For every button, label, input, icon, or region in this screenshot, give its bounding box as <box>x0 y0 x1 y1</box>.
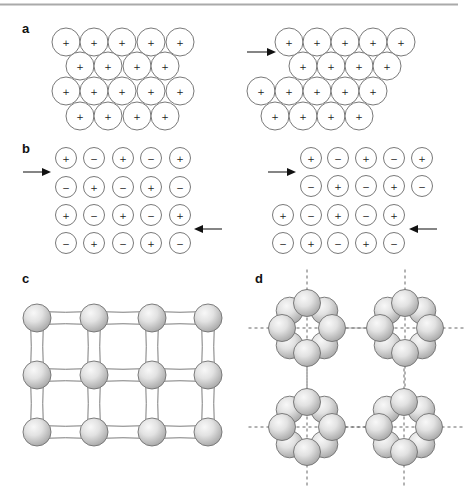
cation: + <box>94 52 122 80</box>
charge-sign: − <box>307 182 315 192</box>
charge-sign: − <box>176 183 184 193</box>
charge-sign: + <box>334 211 342 221</box>
anion: − <box>384 148 405 169</box>
cation: + <box>384 176 405 197</box>
panel-label-b: b <box>22 141 30 156</box>
panel-b-left-lattice: +−+−+−+−+−+−+−+−+−+− <box>23 148 222 254</box>
charge-sign: + <box>62 87 70 97</box>
anion: − <box>141 205 162 226</box>
cation: + <box>52 28 80 56</box>
cation: + <box>80 28 108 56</box>
arrow-right-icon <box>247 48 276 56</box>
panel-d-rings <box>269 290 444 466</box>
anion: − <box>301 176 322 197</box>
anion: − <box>412 176 433 197</box>
cation: + <box>261 102 289 130</box>
charge-sign: + <box>118 38 126 48</box>
atom-sphere <box>392 340 419 367</box>
charge-sign: + <box>341 38 349 48</box>
charge-sign: + <box>285 38 293 48</box>
charge-sign: + <box>418 154 426 164</box>
panel-label-d: d <box>255 271 263 286</box>
atom-sphere <box>392 290 419 317</box>
charge-sign: − <box>147 154 155 164</box>
cation: + <box>303 77 331 105</box>
cation: + <box>141 177 162 198</box>
charge-sign: + <box>161 62 169 72</box>
cation: + <box>108 28 136 56</box>
cation: + <box>113 205 134 226</box>
atom-sphere <box>138 418 166 446</box>
charge-sign: + <box>313 87 321 97</box>
cation: + <box>123 102 151 130</box>
cation: + <box>359 77 387 105</box>
cation: + <box>303 28 331 56</box>
panel-label-c: c <box>22 271 29 286</box>
charge-sign: + <box>161 112 169 122</box>
charge-sign: + <box>257 87 265 97</box>
anion: − <box>170 233 191 254</box>
charge-sign: + <box>90 239 98 249</box>
cation: + <box>289 52 317 80</box>
panel-c-bonds <box>31 312 215 439</box>
panel-a-right-sheared-lattice: ++++++++++++++++++ <box>247 28 415 130</box>
charge-sign: + <box>90 183 98 193</box>
cation: + <box>137 28 165 56</box>
charge-sign: + <box>327 112 335 122</box>
charge-sign: − <box>334 239 342 249</box>
anion: − <box>273 233 294 254</box>
cation: + <box>373 52 401 80</box>
cation: + <box>170 148 191 169</box>
charge-sign: − <box>307 211 315 221</box>
arrow-right-icon <box>23 168 51 176</box>
atom-sphere <box>194 418 222 446</box>
atom-sphere <box>80 418 108 446</box>
cation: + <box>166 77 194 105</box>
ring-cluster <box>367 290 444 367</box>
charge-sign: + <box>307 154 315 164</box>
charge-sign: + <box>104 112 112 122</box>
atom-sphere <box>294 340 321 367</box>
charge-sign: + <box>383 62 391 72</box>
anion: − <box>356 176 377 197</box>
cation: + <box>84 233 105 254</box>
charge-sign: + <box>362 154 370 164</box>
ionic-structure-figure: a ++++++++++++++++++ ++++++++++++++++++ … <box>0 0 472 495</box>
anion: − <box>56 233 77 254</box>
atom-sphere <box>319 315 346 342</box>
cation: + <box>359 28 387 56</box>
charge-sign: + <box>62 211 70 221</box>
charge-sign: − <box>62 239 70 249</box>
panel-b-right-sheared-lattice: +−+−+−+−+−+−+−+−+−+− <box>268 148 437 254</box>
charge-sign: + <box>119 154 127 164</box>
anion: − <box>56 177 77 198</box>
cation: + <box>113 148 134 169</box>
charge-sign: + <box>279 211 287 221</box>
charge-sign: + <box>147 38 155 48</box>
arrow-left-icon <box>409 225 437 233</box>
atom-sphere <box>367 315 394 342</box>
charge-sign: + <box>397 38 405 48</box>
cation: + <box>387 28 415 56</box>
atom-sphere <box>23 304 51 332</box>
arrow-right-icon <box>268 168 296 176</box>
charge-sign: + <box>176 211 184 221</box>
anion: − <box>328 233 349 254</box>
cation: + <box>170 205 191 226</box>
cation: + <box>331 77 359 105</box>
atom-sphere <box>194 304 222 332</box>
charge-sign: + <box>90 38 98 48</box>
charge-sign: − <box>362 211 370 221</box>
anion: − <box>113 177 134 198</box>
cation: + <box>317 52 345 80</box>
charge-sign: + <box>390 211 398 221</box>
charge-sign: + <box>369 87 377 97</box>
atom-sphere <box>417 315 444 342</box>
atom-sphere <box>80 361 108 389</box>
anion: − <box>113 233 134 254</box>
charge-sign: − <box>390 239 398 249</box>
charge-sign: − <box>90 211 98 221</box>
atom-sphere <box>416 414 443 441</box>
cation: + <box>108 77 136 105</box>
cation: + <box>247 77 275 105</box>
